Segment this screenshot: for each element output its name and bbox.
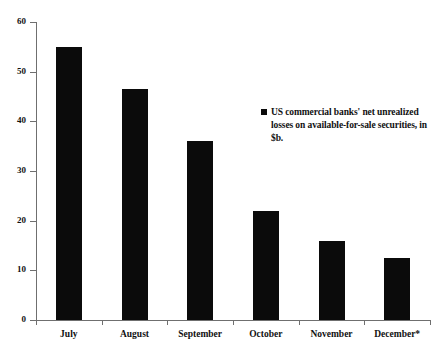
y-tick-mark	[30, 270, 36, 271]
x-tick-mark	[36, 320, 37, 325]
legend-label: US commercial banks' net unrealized loss…	[271, 106, 429, 144]
y-tick-label: 0	[0, 315, 26, 324]
y-tick-label: 50	[0, 67, 26, 76]
chart-legend: US commercial banks' net unrealized loss…	[261, 106, 429, 144]
x-tick-label: October	[233, 330, 299, 340]
bar	[187, 141, 213, 320]
bar	[122, 89, 148, 320]
y-tick-mark	[30, 72, 36, 73]
x-tick-mark	[430, 320, 431, 325]
x-tick-mark	[167, 320, 168, 325]
y-tick-label: 60	[0, 17, 26, 26]
bar	[253, 211, 279, 320]
bar	[319, 241, 345, 320]
y-tick-mark	[30, 171, 36, 172]
y-tick-label: 30	[0, 166, 26, 175]
x-tick-label: July	[36, 330, 102, 340]
y-tick-label: 10	[0, 265, 26, 274]
bar-chart: 0102030405060 JulyAugustSeptemberOctober…	[0, 0, 440, 352]
x-tick-mark	[299, 320, 300, 325]
y-tick-label: 40	[0, 116, 26, 125]
x-tick-label: November	[299, 330, 365, 340]
y-tick-mark	[30, 22, 36, 23]
bar	[56, 47, 82, 320]
x-tick-label: August	[102, 330, 168, 340]
y-tick-label: 20	[0, 216, 26, 225]
bar	[384, 258, 410, 320]
x-tick-mark	[102, 320, 103, 325]
y-axis-line	[36, 22, 37, 320]
x-tick-label: December*	[364, 330, 430, 340]
y-tick-mark	[30, 121, 36, 122]
y-tick-mark	[30, 221, 36, 222]
x-tick-mark	[233, 320, 234, 325]
x-tick-label: September	[167, 330, 233, 340]
x-tick-mark	[364, 320, 365, 325]
square-marker	[261, 109, 267, 115]
